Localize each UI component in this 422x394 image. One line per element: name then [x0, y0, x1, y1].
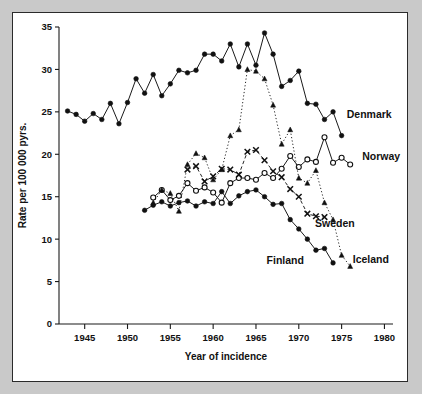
series-denmark — [65, 31, 344, 138]
data-point — [219, 189, 224, 194]
data-point — [322, 117, 327, 122]
data-point — [237, 194, 242, 199]
data-point — [279, 166, 284, 171]
data-point — [339, 155, 344, 160]
data-point — [228, 42, 233, 47]
data-point — [270, 168, 276, 174]
data-point — [202, 200, 207, 205]
y-tick-label: 35 — [41, 21, 52, 32]
data-point — [194, 204, 199, 209]
x-tick-label: 1980 — [374, 332, 395, 343]
data-point — [322, 200, 327, 205]
data-point — [168, 198, 173, 203]
data-point — [296, 165, 301, 170]
data-point — [271, 202, 276, 207]
data-point — [211, 190, 216, 195]
data-point — [185, 199, 190, 204]
data-point — [271, 52, 276, 57]
data-point — [211, 52, 216, 57]
x-tick-label: 1945 — [74, 332, 96, 343]
data-point — [314, 102, 319, 107]
data-point — [279, 141, 284, 146]
x-tick-label: 1950 — [117, 332, 138, 343]
data-point — [339, 253, 344, 258]
data-point — [202, 185, 207, 190]
data-point — [228, 201, 233, 206]
data-point — [219, 59, 224, 64]
figure-panel: 0510152025303519451950195519601965197019… — [12, 12, 408, 382]
data-point — [142, 91, 147, 96]
data-point — [279, 201, 284, 206]
series-label-iceland: Iceland — [353, 253, 389, 265]
series-line — [153, 69, 350, 266]
data-point — [331, 261, 336, 266]
data-point — [176, 193, 181, 198]
data-point — [331, 160, 336, 165]
data-point — [194, 151, 199, 156]
data-point — [313, 168, 318, 173]
x-axis-title: Year of incidence — [185, 351, 268, 362]
data-point — [305, 180, 310, 185]
data-point — [219, 200, 224, 205]
series-iceland — [151, 67, 353, 269]
data-point — [159, 93, 164, 98]
data-point — [125, 100, 130, 105]
data-point — [245, 42, 250, 47]
data-point — [168, 204, 173, 209]
data-point — [82, 119, 87, 124]
data-point — [194, 68, 199, 73]
data-point — [296, 69, 301, 74]
y-tick-label: 5 — [47, 276, 53, 287]
data-point — [168, 82, 173, 87]
data-point — [262, 31, 267, 36]
x-tick-label: 1970 — [288, 332, 309, 343]
series-labels-layer: DenmarkNorwaySwedenFinlandIceland — [267, 108, 401, 266]
data-point — [262, 170, 267, 175]
series-line — [153, 137, 350, 202]
data-point — [151, 200, 156, 205]
data-point — [228, 181, 233, 186]
x-tick-label: 1975 — [331, 332, 353, 343]
data-point — [245, 189, 250, 194]
data-point — [339, 133, 344, 138]
data-point — [142, 208, 147, 213]
y-tick-label: 0 — [47, 318, 52, 329]
data-point — [151, 72, 156, 77]
data-point — [322, 246, 327, 251]
data-point — [193, 163, 199, 169]
data-point — [176, 208, 181, 213]
data-point — [305, 101, 310, 106]
data-point — [117, 121, 122, 126]
data-point — [331, 110, 336, 115]
x-tick-label: 1955 — [160, 332, 182, 343]
axes-layer: 0510152025303519451950195519601965197019… — [41, 21, 395, 343]
data-point — [305, 237, 310, 242]
data-point — [279, 84, 284, 89]
data-point — [305, 157, 310, 162]
data-point — [74, 112, 79, 117]
data-point — [279, 174, 285, 180]
data-point — [194, 188, 199, 193]
data-point — [296, 227, 301, 232]
data-point — [296, 194, 302, 200]
data-point — [287, 186, 293, 192]
data-point — [177, 68, 182, 73]
data-point — [185, 181, 190, 186]
series-label-denmark: Denmark — [347, 108, 392, 120]
y-tick-label: 20 — [41, 149, 52, 160]
x-tick-label: 1960 — [203, 332, 224, 343]
data-point — [185, 162, 190, 167]
axis-titles-layer: Year of incidenceRate per 100 000 pyrs. — [17, 122, 268, 362]
data-point — [314, 248, 319, 253]
data-point — [348, 162, 353, 167]
data-point — [288, 153, 293, 158]
data-point — [271, 176, 276, 181]
y-tick-label: 25 — [41, 106, 52, 117]
data-point — [262, 194, 267, 199]
data-point — [262, 157, 268, 163]
data-point — [245, 176, 250, 181]
y-tick-label: 10 — [41, 234, 52, 245]
series-line — [68, 33, 342, 136]
data-point — [288, 127, 293, 132]
data-point — [202, 155, 207, 160]
